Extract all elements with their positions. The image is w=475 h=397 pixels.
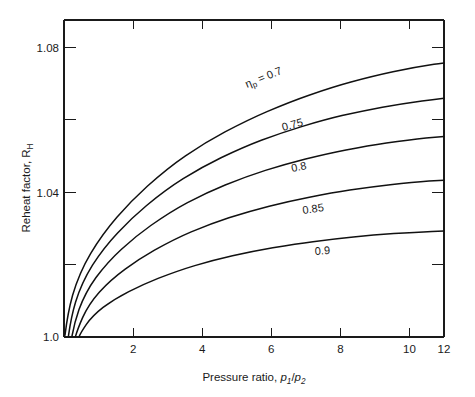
curve-label-text: 0.9 — [314, 244, 330, 257]
y-tick-labels: 1.0 1.04 1.08 — [37, 42, 60, 344]
svg-text:Reheat factor, RH: Reheat factor, RH — [20, 143, 35, 232]
y-axis-title: Reheat factor, RH — [20, 143, 35, 232]
eta-value: = 0.7 — [253, 64, 283, 86]
curve-label-text: 0.85 — [302, 201, 325, 216]
y-axis-title-subH: H — [26, 143, 35, 149]
curve-set — [65, 63, 444, 337]
curve-label-eta-0-7: ηp = 0.7 — [243, 64, 284, 92]
curve-eta-0-9 — [79, 231, 444, 337]
y-tick-label: 1.08 — [37, 42, 59, 54]
curve-label-0-85: 0.85 — [302, 201, 325, 216]
curve-label-text: 0.8 — [290, 159, 307, 174]
chart-canvas: 2 4 6 8 10 12 1.0 1.04 1.08 — [0, 0, 475, 397]
x-tick-labels: 2 4 6 8 10 12 — [130, 343, 451, 355]
curve-eta-0-75 — [69, 98, 445, 335]
x-tick-label: 6 — [268, 343, 274, 355]
svg-text:ηp = 0.7: ηp = 0.7 — [243, 64, 284, 92]
y-axis-title-R: R — [20, 149, 32, 157]
x-tick-label: 4 — [199, 343, 206, 355]
x-tick-label: 10 — [403, 343, 416, 355]
curve-label-0-9: 0.9 — [314, 244, 330, 257]
curve-labels: ηp = 0.7 0.75 0.8 0.85 0.9 — [243, 64, 330, 257]
y-tick-label: 1.0 — [43, 331, 59, 343]
plot-frame — [64, 20, 444, 337]
x-axis-title-sub2: 2 — [300, 377, 306, 386]
y-tick-label: 1.04 — [37, 187, 60, 199]
svg-text:Pressure ratio, p1/p2: Pressure ratio, p1/p2 — [202, 371, 306, 386]
curve-label-0-75: 0.75 — [280, 116, 304, 133]
curve-label-text: 0.75 — [280, 116, 304, 133]
curve-label-0-8: 0.8 — [290, 159, 307, 174]
reheat-factor-chart-figure: 2 4 6 8 10 12 1.0 1.04 1.08 — [0, 0, 475, 397]
x-tick-label: 8 — [337, 343, 343, 355]
curve-eta-0-85 — [76, 180, 445, 336]
curve-eta-0-8 — [72, 137, 444, 337]
y-axis-title-prefix: Reheat factor, — [20, 158, 32, 233]
x-axis-title: Pressure ratio, p1/p2 — [202, 371, 306, 386]
x-tick-label: 2 — [130, 343, 136, 355]
curve-eta-0-7 — [65, 63, 444, 335]
x-axis-title-prefix: Pressure ratio, — [202, 371, 280, 383]
x-tick-label: 12 — [438, 343, 451, 355]
